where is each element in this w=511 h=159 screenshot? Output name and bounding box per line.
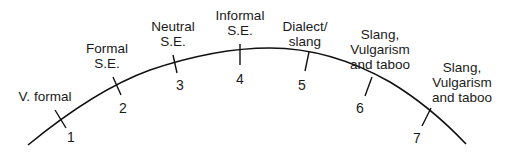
point-number-1: 1 (67, 129, 75, 145)
point-number-6: 6 (356, 100, 364, 116)
point-label-7-line-1: Slang, (443, 60, 481, 75)
point-label-4-line-1: Informal (216, 8, 265, 23)
point-label-5-line-2: slang (289, 34, 321, 49)
point-label-6-line-3: and taboo (350, 57, 410, 72)
point-label-2-line-2: S.E. (94, 56, 120, 71)
tick-mark-3 (173, 55, 177, 73)
point-label-5-line-1: Dialect/ (282, 19, 327, 34)
tick-mark-7 (422, 108, 431, 126)
point-label-3-line-1: Neutral (151, 19, 195, 34)
point-5: 5 Dialect/ slang (282, 19, 327, 93)
point-number-5: 5 (298, 77, 306, 93)
tick-mark-6 (365, 77, 372, 96)
formality-scale-diagram: 1 V. formal 2 Formal S.E. 3 Neutral S.E.… (0, 0, 511, 159)
point-label-1: V. formal (19, 89, 72, 104)
tick-mark-1 (55, 110, 66, 128)
point-3: 3 Neutral S.E. (151, 19, 195, 93)
point-label-2-line-1: Formal (86, 41, 128, 56)
tick-mark-5 (305, 52, 309, 71)
point-label-6-line-2: Vulgarism (350, 42, 410, 57)
point-6: 6 Slang, Vulgarism and taboo (350, 27, 410, 116)
point-label-7-line-3: and taboo (432, 90, 492, 105)
point-label-4-line-2: S.E. (227, 23, 253, 38)
point-7: 7 Slang, Vulgarism and taboo (413, 60, 492, 146)
point-label-7-line-2: Vulgarism (432, 75, 492, 90)
point-number-2: 2 (119, 100, 127, 116)
point-number-4: 4 (236, 71, 244, 87)
point-2: 2 Formal S.E. (86, 41, 128, 116)
point-label-6-line-1: Slang, (361, 27, 399, 42)
point-number-3: 3 (176, 77, 184, 93)
point-1: 1 V. formal (19, 89, 75, 145)
point-label-3-line-2: S.E. (160, 34, 186, 49)
point-number-7: 7 (413, 130, 421, 146)
